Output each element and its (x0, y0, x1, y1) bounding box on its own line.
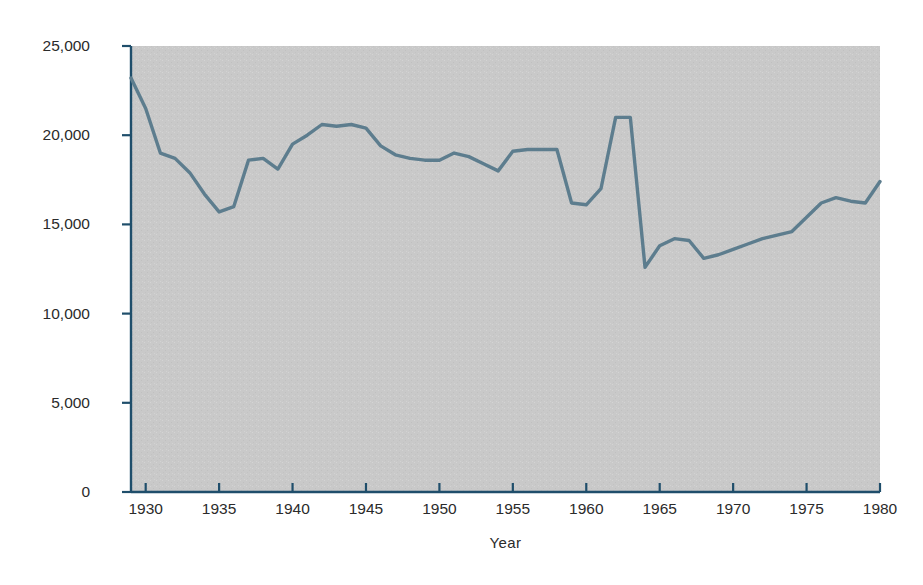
x-axis-title: Year (131, 534, 880, 551)
plot-canvas (0, 0, 923, 585)
x-tick-label: 1955 (496, 500, 530, 518)
x-tick-label: 1950 (422, 500, 456, 518)
x-tick-label: 1975 (789, 500, 823, 518)
y-tick-label: 0 (0, 483, 106, 501)
y-tick-label: 15,000 (0, 215, 106, 233)
y-tick-label: 20,000 (0, 126, 106, 144)
x-tick-label: 1970 (716, 500, 750, 518)
plot-area-background (131, 46, 880, 492)
y-tick-label: 25,000 (0, 37, 106, 55)
y-axis-tick-labels: 05,00010,00015,00020,00025,000 (0, 0, 106, 585)
x-tick-label: 1940 (275, 500, 309, 518)
y-tick-label: 10,000 (0, 305, 106, 323)
x-tick-label: 1960 (569, 500, 603, 518)
x-tick-label: 1935 (202, 500, 236, 518)
x-tick-label: 1965 (642, 500, 676, 518)
x-tick-label: 1945 (349, 500, 383, 518)
x-tick-label: 1980 (863, 500, 897, 518)
x-axis-tick-labels: 1930193519401945195019551960196519701975… (0, 500, 923, 526)
y-tick-label: 5,000 (0, 394, 106, 412)
chart-figure: Number of movie theaters Year 05,00010,0… (0, 0, 923, 585)
x-tick-label: 1930 (128, 500, 162, 518)
